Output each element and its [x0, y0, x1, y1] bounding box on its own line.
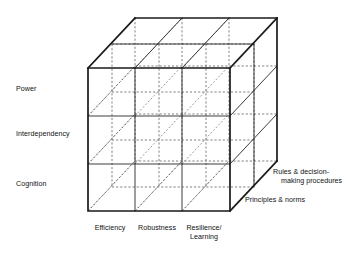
- right-face-grid: [230, 44, 277, 187]
- axis-label-principles-norms: Principles & norms: [245, 196, 335, 205]
- axis-label-rules-decision-line2: making procedures: [281, 177, 354, 186]
- edge-top-right-depth: [230, 18, 277, 68]
- top-face-grid: [112, 18, 254, 68]
- cube-outline: [88, 18, 277, 211]
- axis-label-rules-decision-line1: Rules & decision-: [273, 168, 354, 177]
- top-grid-v2: [182, 18, 229, 68]
- diag-r0-c1: [135, 66, 182, 116]
- right-grid-h1: [230, 66, 277, 116]
- edge-top-left-depth: [88, 18, 135, 68]
- diag-r1-c1: [135, 114, 182, 164]
- axis-label-power: Power: [16, 85, 86, 94]
- top-grid-v1: [135, 18, 182, 68]
- right-grid-h2: [230, 114, 277, 164]
- axis-label-cognition: Cognition: [16, 180, 86, 189]
- diag-r0-c2: [182, 66, 229, 116]
- figure-root: Power Interdependency Cognition Efficien…: [0, 0, 354, 255]
- visible-lines-group: [88, 18, 277, 211]
- depth-diagonal-group: [88, 18, 229, 211]
- diag-r1-c2: [182, 114, 229, 164]
- axis-label-interdependency: Interdependency: [16, 130, 96, 139]
- axis-label-resilience-learning: Resilience/ Learning: [174, 224, 234, 241]
- cube-diagram-svg: [0, 0, 354, 255]
